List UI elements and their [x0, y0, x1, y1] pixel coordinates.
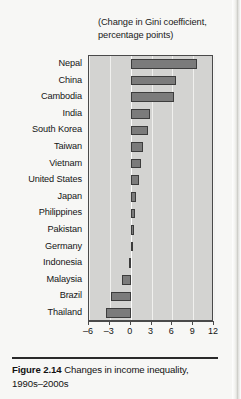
category-label: China: [0, 72, 86, 89]
bar-row: [89, 56, 212, 73]
category-label: Thailand: [0, 304, 86, 321]
bar-row: [89, 255, 212, 272]
bar: [131, 142, 144, 152]
category-label: India: [0, 105, 86, 122]
category-label: Cambodia: [0, 88, 86, 105]
category-label: Nepal: [0, 55, 86, 72]
bar: [129, 258, 131, 268]
bar: [111, 292, 130, 302]
category-label: Vietnam: [0, 155, 86, 172]
axis-tick: [130, 321, 131, 325]
bar-row: [89, 189, 212, 206]
bar-row: [89, 222, 212, 239]
bar: [122, 275, 130, 285]
chart-axis-unit-title: (Change in Gini coefficient, percentage …: [98, 16, 233, 42]
axis-tick: [192, 321, 193, 325]
bar-row: [89, 106, 212, 123]
bar: [131, 126, 148, 136]
bar: [106, 308, 130, 318]
category-label: Malaysia: [0, 271, 86, 288]
bar: [131, 109, 150, 119]
figure-caption: Figure 2.14 Changes in income inequality…: [12, 363, 212, 390]
bar: [131, 159, 141, 169]
category-label: Indonesia: [0, 254, 86, 271]
bar-row: [89, 73, 212, 90]
axis-tick: [213, 321, 214, 325]
bar-row: [89, 239, 212, 256]
bar: [131, 225, 134, 235]
bar-row: [89, 205, 212, 222]
bar-row: [89, 89, 212, 106]
axis-tick-label: –6: [83, 326, 93, 336]
axis-tick: [88, 321, 89, 325]
gridline: [214, 56, 215, 320]
bar: [131, 59, 197, 69]
figure-number: Figure 2.14: [12, 364, 62, 375]
figure-page: (Change in Gini coefficient, percentage …: [0, 0, 241, 399]
bar-chart: NepalChinaCambodiaIndiaSouth KoreaTaiwan…: [0, 55, 232, 345]
axis-tick-label: 9: [190, 326, 195, 336]
axis-tick: [109, 321, 110, 325]
value-axis: –6–3036912: [88, 321, 213, 345]
bar-row: [89, 122, 212, 139]
bar-row: [89, 139, 212, 156]
bar: [131, 175, 139, 185]
axis-tick-label: 3: [148, 326, 153, 336]
category-label: United States: [0, 171, 86, 188]
bar-row: [89, 156, 212, 173]
bar: [131, 242, 134, 252]
bar: [131, 92, 174, 102]
axis-tick-label: –3: [104, 326, 114, 336]
bar: [131, 192, 137, 202]
bar-row: [89, 305, 212, 322]
bar: [131, 209, 135, 219]
axis-tick: [171, 321, 172, 325]
bar-row: [89, 172, 212, 189]
axis-tick-label: 6: [169, 326, 174, 336]
category-label: Pakistan: [0, 221, 86, 238]
category-axis-labels: NepalChinaCambodiaIndiaSouth KoreaTaiwan…: [0, 55, 86, 321]
category-label: Germany: [0, 238, 86, 255]
bar-row: [89, 288, 212, 305]
bar: [131, 76, 177, 86]
plot-area: [88, 55, 213, 321]
category-label: Japan: [0, 188, 86, 205]
axis-tick-label: 12: [208, 326, 218, 336]
axis-tick-label: 0: [127, 326, 132, 336]
axis-tick: [151, 321, 152, 325]
category-label: South Korea: [0, 121, 86, 138]
page-edge-line: [237, 0, 238, 399]
category-label: Brazil: [0, 287, 86, 304]
category-label: Taiwan: [0, 138, 86, 155]
bar-row: [89, 272, 212, 289]
caption-divider: [12, 357, 218, 359]
category-label: Philippines: [0, 204, 86, 221]
